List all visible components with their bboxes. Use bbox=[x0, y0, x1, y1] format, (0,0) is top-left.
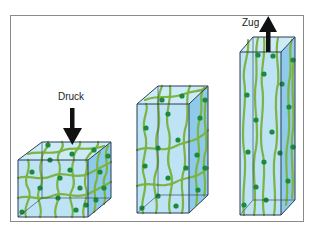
elastomer-diagram bbox=[0, 0, 314, 229]
compressed-block bbox=[18, 142, 111, 217]
compression-arrow-icon bbox=[63, 108, 82, 145]
compression-label: Druck bbox=[58, 92, 84, 102]
stretched-block bbox=[240, 37, 296, 215]
tension-label: Zug bbox=[242, 18, 259, 28]
relaxed-block bbox=[137, 86, 208, 213]
